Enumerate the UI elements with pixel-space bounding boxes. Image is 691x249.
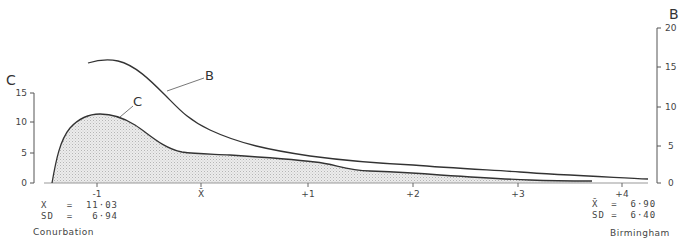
conurbation-mean: X = 11·03 [41,200,118,210]
x-tick-mean: X̄ [198,188,204,199]
birmingham-label: Birmingham [610,228,670,238]
x-tick-plus1: +1 [301,189,314,199]
right-tick-20: 20 [665,23,677,33]
curve-label-b: B [205,68,214,83]
x-tick-plus4: +4 [615,189,629,199]
conurbation-sd: SD = 6·94 [41,211,118,221]
right-tick-10: 10 [665,102,677,112]
right-tick-0: 0 [668,178,674,188]
c-leader-line [120,106,133,117]
x-tick-plus2: +2 [406,189,419,199]
right-tick-15: 15 [665,62,676,72]
x-axis-ticks: -1 X̄ +1 +2 +3 +4 [93,183,629,199]
x-tick-minus1: -1 [93,189,102,199]
birmingham-sd: SD = 6·40 [592,210,656,220]
right-tick-5: 5 [668,141,674,151]
left-axis-title: C [6,72,16,88]
b-leader-line [167,78,204,91]
left-tick-0: 0 [21,178,27,188]
right-axis-title: B [669,6,679,22]
x-tick-plus3: +3 [511,189,524,199]
left-tick-5: 5 [21,148,27,158]
conurbation-label: Conurbation [33,227,94,237]
right-axis: 20 15 10 5 0 B [657,6,679,188]
left-tick-10: 10 [16,117,28,127]
curve-label-c: C [133,94,142,109]
left-tick-15: 15 [16,88,27,98]
left-axis: 0 5 10 15 C [6,72,34,188]
birmingham-mean: X̄ = 6·90 [592,199,656,209]
